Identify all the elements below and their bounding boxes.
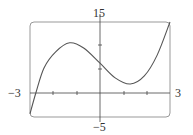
- x-min-label: −3: [8, 87, 21, 99]
- y-max-label: 15: [93, 7, 105, 19]
- chart-canvas: [0, 0, 193, 135]
- y-min-label: −5: [93, 121, 106, 133]
- x-max-label: 3: [175, 87, 181, 99]
